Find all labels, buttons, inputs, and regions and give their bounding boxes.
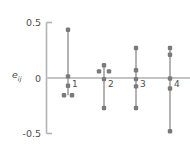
y-axis-title-subscript: ij xyxy=(18,75,22,83)
group-label-4: 4 xyxy=(174,79,180,89)
series-group xyxy=(168,46,172,134)
data-point xyxy=(134,77,138,81)
data-point xyxy=(168,52,172,56)
group-label-layer: 1234 xyxy=(72,79,180,89)
data-point xyxy=(134,46,138,50)
data-point xyxy=(134,68,138,72)
data-point xyxy=(102,77,106,81)
data-point xyxy=(62,93,66,97)
group-label-1: 1 xyxy=(72,79,78,89)
data-point xyxy=(66,74,70,78)
data-point xyxy=(70,93,74,97)
group-label-3: 3 xyxy=(140,79,146,89)
group-label-2: 2 xyxy=(108,79,114,89)
y-tick-label-bottom: -0.5 xyxy=(22,128,41,139)
y-axis-title: eij xyxy=(12,69,22,83)
data-point xyxy=(107,69,111,73)
data-point xyxy=(168,129,172,133)
data-point xyxy=(168,76,172,80)
data-point xyxy=(102,106,106,110)
data-point xyxy=(66,28,70,32)
series-layer xyxy=(62,28,172,134)
data-point xyxy=(66,84,70,88)
error-plot-chart: 0.5 0 -0.5 eij 1234 xyxy=(0,0,190,147)
y-tick-label-top: 0.5 xyxy=(26,17,41,28)
data-point xyxy=(97,69,101,73)
series-group xyxy=(134,46,138,110)
data-point xyxy=(134,84,138,88)
data-point xyxy=(168,86,172,90)
data-point xyxy=(102,63,106,67)
data-point xyxy=(134,106,138,110)
y-tick-label-zero: 0 xyxy=(35,73,41,84)
plot-area: 0.5 0 -0.5 eij 1234 xyxy=(0,0,190,147)
data-point xyxy=(168,46,172,50)
